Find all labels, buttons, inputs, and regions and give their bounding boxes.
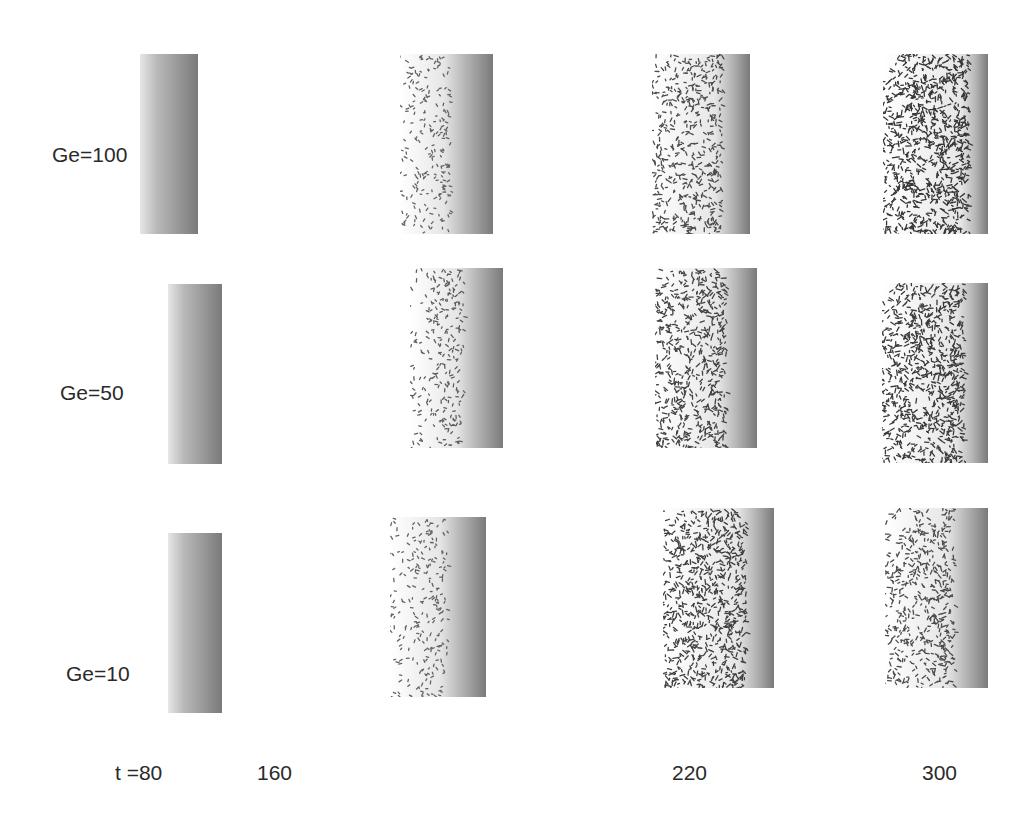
simulation-panel-r1-c1: [410, 268, 503, 448]
labyrinth-pattern: [885, 508, 988, 688]
col-label-t-160: 160: [257, 761, 292, 785]
labyrinth-pattern: [655, 268, 757, 448]
col-label-t-220: 220: [672, 761, 707, 785]
labyrinth-pattern: [652, 54, 750, 234]
simulation-panel-r2-c1: [390, 517, 486, 697]
simulation-panel-r0-c3: [883, 54, 988, 234]
labyrinth-pattern: [390, 517, 486, 697]
labyrinth-pattern: [400, 54, 493, 234]
row-label-ge-50: Ge=50: [60, 381, 124, 405]
simulation-panel-r2-c3: [885, 508, 988, 688]
simulation-panel-r1-c2: [655, 268, 757, 448]
simulation-panel-r0-c0: [140, 54, 198, 234]
row-label-ge-10: Ge=10: [66, 662, 130, 686]
simulation-panel-r2-c0: [168, 533, 222, 713]
simulation-panel-r2-c2: [663, 508, 774, 688]
simulation-panel-r1-c3: [882, 283, 988, 463]
labyrinth-pattern: [410, 268, 503, 448]
labyrinth-pattern: [882, 283, 988, 463]
simulation-panel-r0-c2: [652, 54, 750, 234]
labyrinth-pattern: [663, 508, 774, 688]
simulation-panel-r0-c1: [400, 54, 493, 234]
row-label-ge-100: Ge=100: [52, 143, 127, 167]
col-label-t-80: t =80: [115, 761, 162, 785]
simulation-panel-r1-c0: [168, 284, 222, 464]
col-label-t-300: 300: [922, 761, 957, 785]
labyrinth-pattern: [883, 54, 988, 234]
